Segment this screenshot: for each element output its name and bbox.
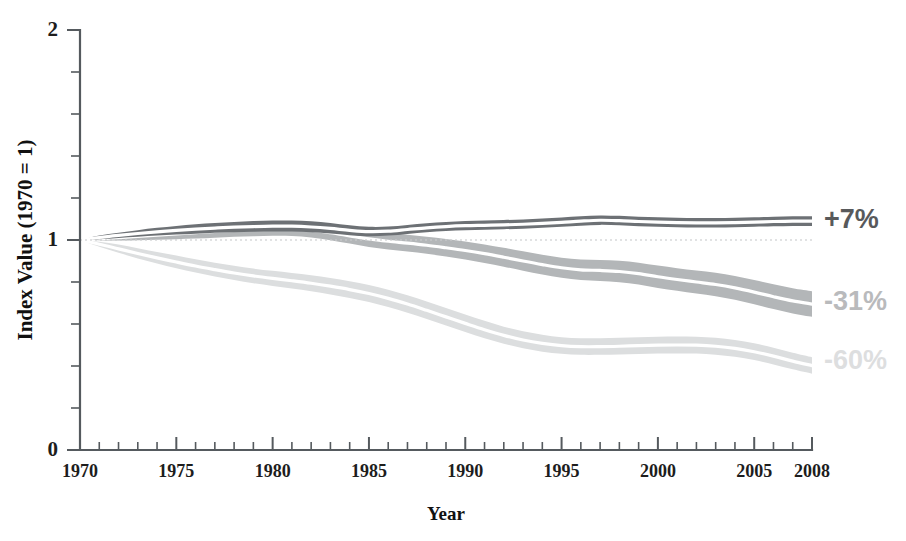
x-tick-label-1970: 1970 xyxy=(62,461,98,481)
chart-canvas: 012 197019751980198519901995200020052008… xyxy=(0,0,906,541)
y-tick-label-2: 2 xyxy=(48,17,59,41)
y-axis-tick-labels: 012 xyxy=(48,17,59,461)
series-layer xyxy=(80,215,812,373)
x-tick-label-2005: 2005 xyxy=(736,461,772,481)
annotation-bottom: -60% xyxy=(824,345,887,375)
x-axis-tick-labels: 197019751980198519901995200020052008 xyxy=(62,461,830,481)
y-tick-label-1: 1 xyxy=(48,227,59,251)
series-band-2 xyxy=(80,240,812,374)
x-tick-label-1990: 1990 xyxy=(447,461,483,481)
x-axis-title: Year xyxy=(427,503,466,524)
y-tick-label-0: 0 xyxy=(48,437,59,461)
y-axis-ticks xyxy=(67,30,80,450)
series-annotation-layer: +7%-31%-60% xyxy=(824,204,887,375)
x-axis-ticks xyxy=(80,437,812,450)
y-axis-title: Index Value (1970 = 1) xyxy=(13,139,37,340)
axis-label-layer: 012 197019751980198519901995200020052008… xyxy=(13,17,830,524)
chart-figure: 012 197019751980198519901995200020052008… xyxy=(0,0,906,541)
x-tick-label-1985: 1985 xyxy=(351,461,387,481)
x-tick-label-1995: 1995 xyxy=(544,461,580,481)
x-tick-label-2008: 2008 xyxy=(794,461,830,481)
x-tick-label-2000: 2000 xyxy=(640,461,676,481)
annotation-top: +7% xyxy=(824,204,879,234)
annotation-middle: -31% xyxy=(824,286,887,316)
x-tick-label-1980: 1980 xyxy=(255,461,291,481)
series-group-2 xyxy=(80,240,812,374)
x-tick-label-1975: 1975 xyxy=(158,461,194,481)
